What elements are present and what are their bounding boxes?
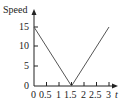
x-tick-2.5: 2.5 [89,89,102,100]
y-tick-10: 10 [19,40,29,51]
x-tick-3: 3 [106,89,111,100]
y-axis-arrow-icon [32,9,37,15]
speed-time-chart: Speed 15 10 5 0 0 0.5 1 1.5 2 2.5 3 t [0,0,121,104]
y-tick-5: 5 [24,60,29,71]
x-tick-2: 2 [81,89,86,100]
x-tick-0: 0 [31,89,36,100]
x-tick-0.5: 0.5 [39,89,52,100]
y-tick-0: 0 [24,80,29,91]
x-axis-arrow-icon [112,84,118,89]
x-axis-label: t [115,89,118,100]
x-tick-1.5: 1.5 [64,89,77,100]
y-tick-15: 15 [19,21,29,32]
y-axis-label: Speed [3,4,27,15]
speed-line [34,27,109,86]
x-tick-1: 1 [56,89,61,100]
